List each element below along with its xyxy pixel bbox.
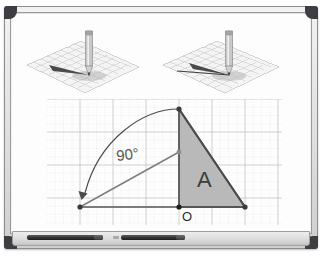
whiteboard: 90° O A <box>4 6 318 249</box>
vertex-dot-top <box>176 106 181 111</box>
angle-label: 90° <box>115 144 140 164</box>
marker-black-2[interactable] <box>113 235 185 240</box>
origin-label: O <box>182 209 192 224</box>
pencil <box>226 31 233 76</box>
vertex-dot-right <box>242 204 247 209</box>
marker-black-1[interactable] <box>27 235 103 240</box>
vertex-dot-left <box>77 204 82 209</box>
marker-cap <box>94 235 103 240</box>
marker-tip <box>113 236 119 239</box>
vertex-dot-origin <box>176 204 181 209</box>
marker-cap <box>176 235 185 240</box>
pencil <box>86 31 93 76</box>
vertex-dot-mid <box>177 150 182 155</box>
grid-plane <box>27 41 139 93</box>
rotation-graph: 90° O A <box>47 99 282 225</box>
grid-plane <box>163 41 279 93</box>
region-label-A: A <box>197 167 212 192</box>
illustration-pencil-single-vector <box>23 27 143 105</box>
marker-tray <box>12 231 310 246</box>
illustration-pencil-two-vectors <box>159 27 285 105</box>
marker-body <box>27 235 103 240</box>
board-surface: 90° O A <box>11 13 311 233</box>
